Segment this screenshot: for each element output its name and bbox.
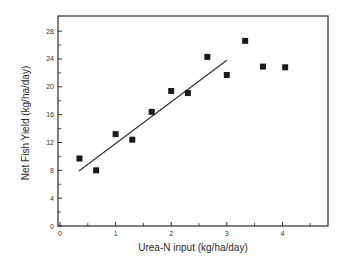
y-tick-label: 8 — [50, 167, 54, 174]
x-axis-title: Urea-N input (kg/ha/day) — [138, 242, 248, 253]
x-tick-label: 1 — [114, 230, 118, 237]
regression-line — [79, 60, 227, 171]
data-point-square — [260, 64, 266, 70]
data-point-square — [242, 38, 248, 44]
data-point-square — [129, 137, 135, 143]
data-point-square — [185, 90, 191, 96]
data-points — [76, 38, 288, 173]
x-tick-label: 0 — [58, 230, 62, 237]
y-axis: 0481216202428 — [46, 28, 62, 230]
data-point-square — [113, 131, 119, 137]
data-point-square — [204, 54, 210, 60]
y-tick-label: 24 — [46, 55, 54, 62]
y-tick-label: 16 — [46, 111, 54, 118]
fit-line — [79, 60, 227, 171]
y-tick-label: 12 — [46, 139, 54, 146]
data-point-square — [282, 64, 288, 70]
y-tick-label: 20 — [46, 83, 54, 90]
x-tick-label: 4 — [280, 230, 284, 237]
y-axis-title: Net Fish Yield (kg/ha/day) — [20, 66, 31, 181]
data-point-square — [76, 155, 82, 161]
y-tick-label: 4 — [50, 195, 54, 202]
scatter-chart: 0481216202428 01234 Urea-N input (kg/ha/… — [0, 0, 347, 265]
x-tick-label: 3 — [225, 230, 229, 237]
data-point-square — [149, 109, 155, 115]
data-point-square — [93, 167, 99, 173]
data-point-square — [224, 72, 230, 78]
data-point-square — [168, 88, 174, 94]
x-tick-label: 2 — [169, 230, 173, 237]
plot-frame — [58, 16, 328, 226]
y-tick-label: 0 — [50, 223, 54, 230]
plot-border — [58, 16, 328, 226]
x-axis: 01234 — [58, 222, 310, 237]
y-tick-label: 28 — [46, 28, 54, 35]
